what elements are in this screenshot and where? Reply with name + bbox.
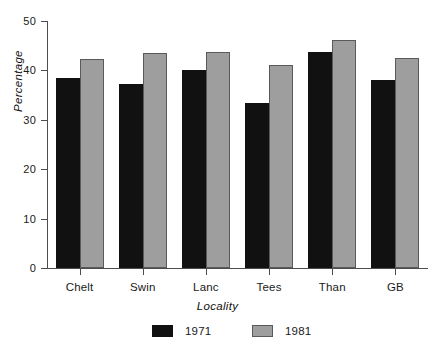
legend-swatch-1971 xyxy=(152,325,173,337)
x-axis-tick xyxy=(332,269,333,275)
bar-lanc-1981 xyxy=(206,52,230,268)
legend-label-1981: 1981 xyxy=(285,325,311,337)
y-axis-tick xyxy=(41,219,47,220)
x-axis-tick xyxy=(80,269,81,275)
bar-than-1981 xyxy=(332,40,356,268)
y-axis-tick-label: 20 xyxy=(23,163,36,175)
y-axis-tick xyxy=(41,120,47,121)
x-axis-tick xyxy=(269,269,270,275)
y-axis-tick-label: 0 xyxy=(30,262,36,274)
bar-gb-1971 xyxy=(371,80,395,268)
y-axis-tick-label: 10 xyxy=(23,213,36,225)
x-axis-tick xyxy=(143,269,144,275)
legend-swatch-1981 xyxy=(252,325,273,337)
bar-swin-1971 xyxy=(119,84,143,268)
legend: 19711981 xyxy=(0,325,435,345)
x-axis-tick-label: Chelt xyxy=(66,281,94,293)
x-axis-line xyxy=(47,268,428,269)
y-axis-tick xyxy=(41,70,47,71)
legend-item-1981: 1981 xyxy=(252,325,311,337)
y-axis-title: Percentage xyxy=(12,50,24,112)
bar-tees-1981 xyxy=(269,65,293,268)
x-axis-tick-label: Swin xyxy=(130,281,156,293)
x-axis-title: Locality xyxy=(0,300,435,312)
x-axis-tick-label: Than xyxy=(319,281,346,293)
bar-lanc-1971 xyxy=(182,70,206,268)
y-axis-tick-label: 50 xyxy=(23,15,36,27)
bar-tees-1971 xyxy=(245,103,269,268)
x-axis-tick xyxy=(206,269,207,275)
bar-chart: 01020304050 Percentage CheltSwinLancTees… xyxy=(0,0,435,353)
legend-item-1971: 1971 xyxy=(152,325,211,337)
x-axis-tick-label: Lanc xyxy=(193,281,219,293)
y-axis-tick-label: 30 xyxy=(23,114,36,126)
y-axis-tick-label: 40 xyxy=(23,64,36,76)
y-axis-tick xyxy=(41,169,47,170)
x-axis-tick xyxy=(395,269,396,275)
bar-than-1971 xyxy=(308,52,332,268)
legend-label-1971: 1971 xyxy=(185,325,211,337)
plot-area xyxy=(48,21,427,268)
x-axis-tick-label: GB xyxy=(387,281,404,293)
bar-gb-1981 xyxy=(395,58,419,268)
x-axis-tick-label: Tees xyxy=(257,281,282,293)
bar-chelt-1981 xyxy=(80,59,104,268)
y-axis-tick xyxy=(41,21,47,22)
bar-swin-1981 xyxy=(143,53,167,268)
bar-chelt-1971 xyxy=(56,78,80,268)
